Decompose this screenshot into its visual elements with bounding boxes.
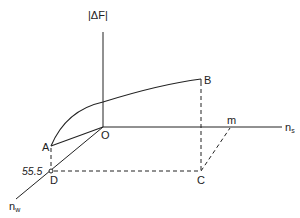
point-d-marker	[49, 169, 53, 173]
point-c-label: C	[197, 174, 205, 186]
point-m-label: m	[227, 114, 236, 126]
point-b-label: B	[204, 74, 211, 86]
d-value-label: 55.5	[22, 165, 43, 177]
curve-ab	[51, 79, 201, 146]
thermodynamic-3d-diagram: |ΔF| ns nw O A B C D m 55.5	[0, 0, 300, 218]
nw-axis-label: nw	[9, 200, 21, 213]
point-d-label: D	[50, 174, 58, 186]
point-o-label: O	[101, 129, 110, 141]
vertical-axis-label: |ΔF|	[88, 9, 108, 21]
nw-axis	[16, 127, 103, 199]
segment-oa	[51, 127, 103, 146]
ns-axis-label: ns	[285, 121, 295, 134]
dashed-c-m	[201, 128, 230, 171]
point-a-label: A	[42, 141, 50, 153]
